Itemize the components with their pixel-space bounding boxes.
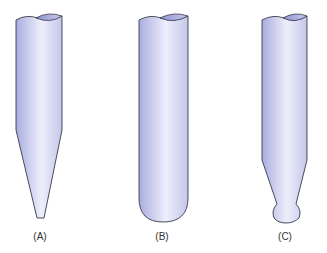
tube-c (262, 14, 307, 223)
label-c: (C) (278, 231, 292, 242)
tube-c-body (262, 16, 307, 223)
tube-b-body (139, 16, 188, 222)
label-b: (B) (155, 231, 168, 242)
tube-a-body (16, 16, 62, 218)
tube-a (16, 14, 62, 218)
tube-b (139, 14, 188, 222)
tubes-diagram (0, 0, 327, 253)
label-a: (A) (33, 231, 46, 242)
